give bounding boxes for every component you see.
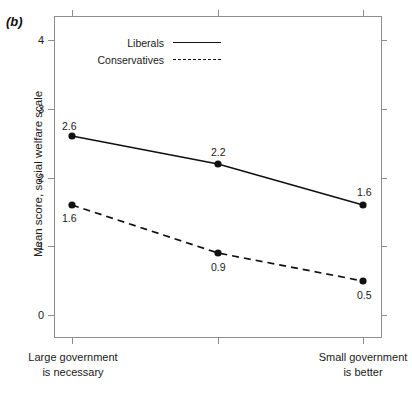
point-label-conservatives-0: 1.6 <box>62 212 77 224</box>
point-conservatives-2 <box>359 277 366 284</box>
point-label-liberals-1: 2.2 <box>211 146 226 158</box>
point-conservatives-0 <box>68 201 75 208</box>
point-liberals-1 <box>214 160 221 167</box>
point-liberals-2 <box>359 201 366 208</box>
point-label-liberals-2: 1.6 <box>357 186 372 198</box>
point-liberals-0 <box>68 132 75 139</box>
point-label-liberals-0: 2.6 <box>62 120 77 132</box>
point-conservatives-1 <box>214 249 221 256</box>
point-label-conservatives-1: 0.9 <box>211 261 226 273</box>
point-label-conservatives-2: 0.5 <box>357 289 372 301</box>
